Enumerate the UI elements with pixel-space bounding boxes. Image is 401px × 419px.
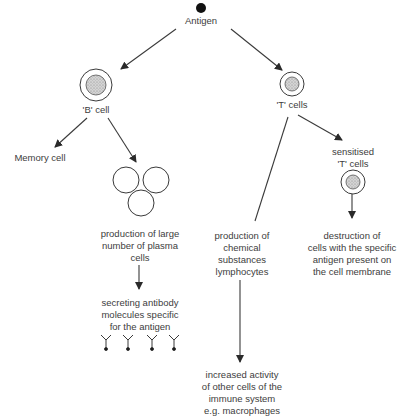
text-line: sensitised [322, 146, 384, 158]
plasma-production-label: production of large number of plasma cel… [92, 228, 188, 264]
text-line: lymphocytes [206, 266, 278, 278]
destruction-label: destruction of cells with the specific a… [296, 230, 401, 278]
text-line: of other cells of the [190, 381, 294, 393]
antigen-dot-icon [196, 3, 206, 13]
text-line: production of [206, 230, 278, 242]
text-line: increased activity [190, 369, 294, 381]
diagram-canvas [0, 0, 401, 419]
text-line: antigen present on [296, 254, 401, 266]
sensitised-t-cells-label: sensitised 'T' cells [322, 146, 384, 170]
t-cell-icon [280, 72, 304, 96]
text-line: destruction of [296, 230, 401, 242]
memory-cell-label: Memory cell [8, 152, 72, 164]
antibody-icons [101, 335, 179, 351]
t-cells-label: 'T' cells [268, 99, 316, 111]
text-line: number of plasma [92, 240, 188, 252]
increased-activity-label: increased activity of other cells of the… [190, 369, 294, 417]
text-line: cells [92, 252, 188, 264]
text-line: substances [206, 254, 278, 266]
text-line: cells with the specific [296, 242, 401, 254]
text-line: the cell membrane [296, 266, 401, 278]
text-line: production of large [92, 228, 188, 240]
text-line: chemical [206, 242, 278, 254]
text-line: for the antigen [90, 321, 190, 333]
chemical-production-label: production of chemical substances lympho… [206, 230, 278, 278]
text-line: immune system [190, 393, 294, 405]
text-line: e.g. macrophages [190, 405, 294, 417]
antibody-secretion-label: secreting antibody molecules specific fo… [90, 297, 190, 333]
text-line: molecules specific [90, 309, 190, 321]
b-cell-icon [80, 69, 112, 101]
text-line: secreting antibody [90, 297, 190, 309]
b-cell-label: 'B' cell [72, 104, 120, 116]
sensitised-t-cell-icon [341, 170, 365, 194]
plasma-cells-icon [113, 167, 169, 216]
antigen-label: Antigen [178, 15, 224, 27]
text-line: 'T' cells [322, 158, 384, 170]
